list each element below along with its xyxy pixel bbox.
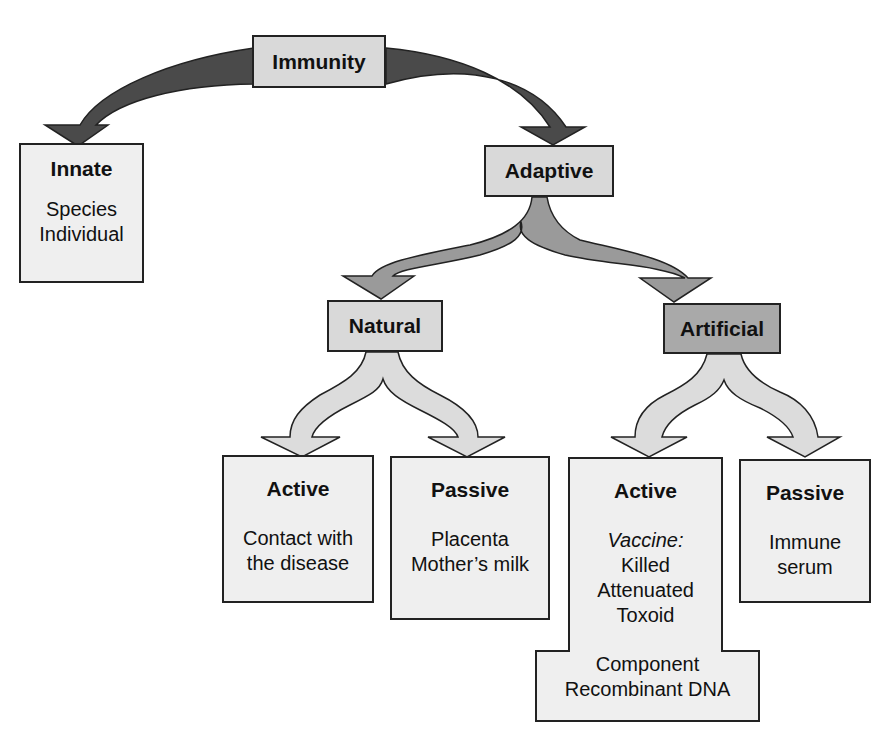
natural-passive-item: Placenta — [431, 527, 509, 552]
vaccine-type: Recombinant DNA — [565, 677, 731, 702]
artificial-active-label: Active — [614, 479, 677, 503]
arrow-immunity-to-adaptive — [386, 48, 585, 145]
node-artificial-active-extension: Component Recombinant DNA — [535, 650, 760, 722]
immunity-diagram: Immunity Innate Species Individual Adapt… — [0, 0, 893, 736]
node-artificial-label: Artificial — [680, 317, 764, 341]
node-artificial: Artificial — [663, 303, 781, 354]
node-innate-label: Innate — [51, 157, 113, 181]
node-artificial-passive: Passive Immune serum — [739, 459, 871, 603]
artificial-passive-item: Immune — [769, 530, 841, 555]
node-natural-active: Active Contact with the disease — [222, 455, 374, 603]
natural-active-item: the disease — [247, 551, 349, 576]
natural-passive-item: Mother’s milk — [411, 552, 529, 577]
artificial-passive-item: serum — [777, 555, 833, 580]
natural-passive-label: Passive — [431, 478, 509, 502]
vaccine-subheading: Vaccine: — [608, 528, 684, 553]
vaccine-type: Component — [596, 652, 699, 677]
node-immunity-label: Immunity — [272, 50, 365, 74]
arrow-artificial-split — [611, 354, 840, 457]
node-artificial-active: Active Vaccine: Killed Attenuated Toxoid — [568, 457, 723, 652]
artificial-passive-label: Passive — [766, 481, 844, 505]
node-natural: Natural — [327, 300, 443, 352]
node-adaptive: Adaptive — [484, 145, 614, 197]
vaccine-type: Killed — [621, 553, 670, 578]
arrows-layer — [0, 0, 893, 736]
arrow-natural-split — [261, 352, 505, 457]
node-natural-passive: Passive Placenta Mother’s milk — [390, 456, 550, 620]
arrow-adaptive-split — [343, 197, 711, 302]
natural-active-item: Contact with — [243, 526, 353, 551]
vaccine-type: Attenuated — [597, 578, 694, 603]
innate-item: Species — [46, 197, 117, 222]
node-adaptive-label: Adaptive — [505, 159, 594, 183]
innate-item: Individual — [39, 222, 124, 247]
natural-active-label: Active — [266, 477, 329, 501]
node-innate: Innate Species Individual — [19, 143, 144, 283]
arrow-immunity-to-innate — [45, 48, 254, 146]
vaccine-type: Toxoid — [617, 603, 675, 628]
node-immunity: Immunity — [252, 35, 386, 88]
node-natural-label: Natural — [349, 314, 421, 338]
